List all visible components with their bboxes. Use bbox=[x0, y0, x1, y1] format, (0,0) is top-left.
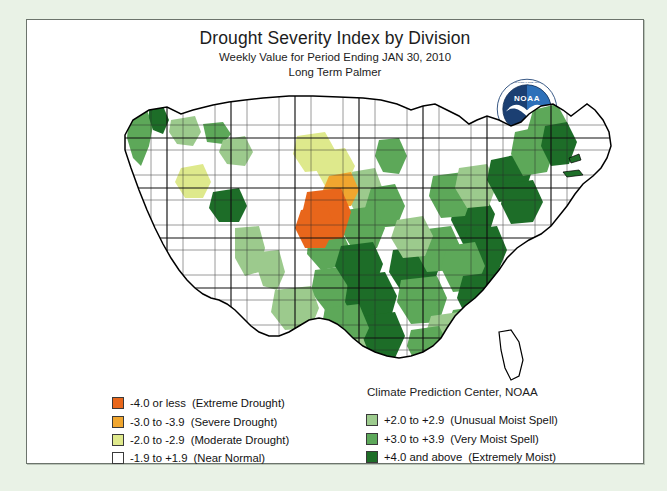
legend-range: +4.0 and above bbox=[384, 451, 462, 463]
map-card: Drought Severity Index by Division Weekl… bbox=[26, 19, 644, 464]
legend-desc: (Unusual Moist Spell) bbox=[450, 414, 557, 426]
page-title: Drought Severity Index by Division bbox=[27, 28, 643, 49]
legend-item-severe-drought: -3.0 to -3.9 (Severe Drought) bbox=[112, 412, 289, 430]
legend-range: +3.0 to +3.9 bbox=[384, 433, 444, 445]
legend-range: -1.9 to +1.9 bbox=[130, 452, 187, 464]
legend-desc: (Severe Drought) bbox=[191, 416, 278, 428]
drought-map-svg bbox=[63, 80, 633, 392]
legend-item-very-moist: +3.0 to +3.9 (Very Moist Spell) bbox=[366, 429, 558, 447]
legend-swatch-severe-drought bbox=[112, 416, 124, 428]
legend-range: -4.0 or less bbox=[130, 397, 186, 409]
legend-range: +2.0 to +2.9 bbox=[384, 414, 444, 426]
legend-swatch-moderate-drought bbox=[112, 434, 124, 446]
credit-text: Climate Prediction Center, NOAA bbox=[367, 385, 538, 398]
legend-item-moderate-drought: -2.0 to -2.9 (Moderate Drought) bbox=[112, 431, 289, 449]
legend-swatch-extreme-drought bbox=[112, 397, 124, 409]
legend-swatch-extremely-moist bbox=[366, 451, 378, 463]
legend-item-extreme-drought: -4.0 or less (Extreme Drought) bbox=[112, 394, 289, 412]
title-block: Drought Severity Index by Division Weekl… bbox=[27, 28, 643, 80]
legend-moist: +2.0 to +2.9 (Unusual Moist Spell) +3.0 … bbox=[366, 411, 558, 466]
legend-swatch-very-moist bbox=[366, 433, 378, 445]
legend-desc: (Extremely Moist) bbox=[468, 451, 556, 463]
legend-desc: (Extreme Drought) bbox=[192, 397, 285, 409]
subtitle-period: Weekly Value for Period Ending JAN 30, 2… bbox=[27, 50, 643, 65]
legend-range: -3.0 to -3.9 bbox=[130, 416, 185, 428]
legend-desc: (Near Normal) bbox=[193, 452, 265, 464]
legend-swatch-near-normal bbox=[112, 452, 124, 464]
legend-drought: -4.0 or less (Extreme Drought) -3.0 to -… bbox=[112, 394, 289, 468]
legend-desc: (Very Moist Spell) bbox=[450, 433, 539, 445]
legend-item-near-normal: -1.9 to +1.9 (Near Normal) bbox=[112, 449, 289, 467]
legend-desc: (Moderate Drought) bbox=[191, 434, 290, 446]
legend-range: -2.0 to -2.9 bbox=[130, 434, 185, 446]
legend-item-unusual-moist: +2.0 to +2.9 (Unusual Moist Spell) bbox=[366, 411, 558, 429]
legend-item-extremely-moist: +4.0 and above (Extremely Moist) bbox=[366, 448, 558, 466]
drought-map bbox=[63, 80, 633, 392]
legend-swatch-unusual-moist bbox=[366, 414, 378, 426]
